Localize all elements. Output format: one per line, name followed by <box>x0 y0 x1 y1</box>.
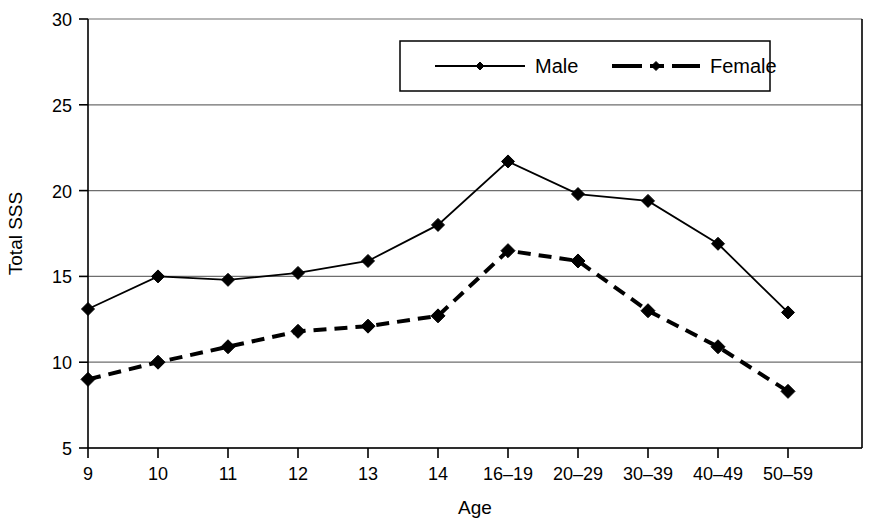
y-tick-label-10: 10 <box>52 353 72 373</box>
legend: MaleFemale <box>400 41 777 91</box>
x-ticks: 9101112131416–1920–2930–3940–4950–59 <box>83 448 813 484</box>
x-tick-label-3: 12 <box>288 464 308 484</box>
x-tick-label-2: 11 <box>219 464 238 484</box>
x-tick-label-10: 50–59 <box>763 464 813 484</box>
y-tick-label-30: 30 <box>52 10 72 30</box>
data-point-female-1 <box>151 355 165 369</box>
data-point-male-2 <box>222 273 235 286</box>
y-tick-label-25: 25 <box>52 96 72 116</box>
data-point-female-4 <box>361 319 375 333</box>
x-tick-label-4: 13 <box>358 464 378 484</box>
data-point-male-0 <box>82 303 95 316</box>
x-tick-label-5: 14 <box>428 464 448 484</box>
data-point-male-3 <box>292 266 305 279</box>
y-tick-label-20: 20 <box>52 182 72 202</box>
data-point-male-8 <box>642 194 655 207</box>
data-point-female-0 <box>81 372 95 386</box>
series-line-male <box>88 161 788 312</box>
legend-label-female: Female <box>710 55 777 77</box>
x-tick-label-9: 40–49 <box>693 464 743 484</box>
y-tick-label-15: 15 <box>52 267 72 287</box>
series-female <box>81 244 795 399</box>
data-point-female-8 <box>641 304 655 318</box>
y-tick-label-5: 5 <box>62 439 72 459</box>
y-axis-title: Total SSS <box>5 192 26 275</box>
x-tick-label-7: 20–29 <box>553 464 603 484</box>
data-point-female-3 <box>291 324 305 338</box>
series-male <box>82 155 795 319</box>
line-chart: 510152025309101112131416–1920–2930–3940–… <box>0 0 877 528</box>
data-point-male-1 <box>152 270 165 283</box>
data-point-male-7 <box>572 188 585 201</box>
x-tick-label-1: 10 <box>148 464 168 484</box>
data-point-male-4 <box>362 254 375 267</box>
data-point-female-2 <box>221 340 235 354</box>
x-tick-label-6: 16–19 <box>483 464 533 484</box>
x-tick-label-0: 9 <box>83 464 93 484</box>
x-tick-label-8: 30–39 <box>623 464 673 484</box>
legend-label-male: Male <box>535 55 578 77</box>
chart-figure: 510152025309101112131416–1920–2930–3940–… <box>0 0 877 528</box>
x-axis-title: Age <box>458 497 492 518</box>
